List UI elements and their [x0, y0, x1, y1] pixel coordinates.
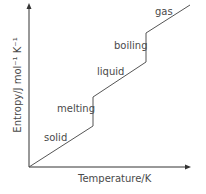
label-solid: solid [44, 133, 67, 143]
y-axis-arrow-icon [27, 3, 32, 9]
entropy-chart [0, 0, 206, 194]
label-boiling: boiling [114, 41, 148, 51]
x-axis-label: Temperature/K [78, 174, 151, 184]
label-gas: gas [155, 7, 173, 17]
label-melting: melting [57, 104, 95, 114]
x-axis-arrow-icon [185, 165, 191, 170]
label-liquid: liquid [97, 67, 124, 77]
y-axis-label: Entropy/J mol⁻¹ K⁻¹ [13, 30, 23, 140]
